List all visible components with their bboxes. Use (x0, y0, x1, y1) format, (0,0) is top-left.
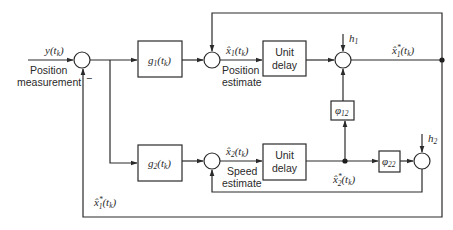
h1-label: h1 (349, 32, 358, 46)
speed-estimate-caption-line2: estimate (222, 177, 262, 189)
position-estimate-caption-line1: Position (222, 64, 260, 76)
x1-pred-feedback-label: x̂*1(tk) (93, 195, 116, 211)
position-estimate-caption-line2: estimate (222, 76, 262, 88)
input-caption-line2: measurement (17, 76, 81, 88)
block-diagram: − y(tk) Position measurement g1(tk) g2(t… (0, 0, 453, 230)
x2-pred-label: x̂*2(tk) (332, 172, 355, 188)
unit-delay-1-line2: delay (272, 59, 298, 71)
prediction-summing-junction-1 (335, 52, 351, 68)
speed-estimate-caption-line1: Speed (227, 165, 258, 177)
x1-pred-label: x̂*1(tk) (391, 43, 414, 59)
input-summing-junction (74, 52, 90, 68)
unit-delay-2-line1: Unit (275, 149, 294, 161)
measurement-feedback-line (83, 60, 442, 217)
error-to-g2-line (110, 60, 137, 163)
unit-delay-2-line2: delay (272, 162, 298, 174)
input-caption-line1: Position (30, 64, 68, 76)
g1-label: g1(tk) (148, 54, 171, 68)
x1-hat-label: x̂1(tk) (225, 44, 249, 58)
x2-hat-label: x̂2(tk) (225, 145, 249, 159)
speed-summing-junction (204, 153, 220, 169)
position-summing-junction (204, 52, 220, 68)
unit-delay-1-line1: Unit (275, 46, 294, 58)
g2-label: g2(tk) (148, 157, 171, 171)
input-signal-label: y(tk) (44, 44, 64, 58)
prediction-summing-junction-2 (414, 153, 430, 169)
minus-sign: − (86, 72, 92, 84)
h2-label: h2 (428, 132, 438, 146)
